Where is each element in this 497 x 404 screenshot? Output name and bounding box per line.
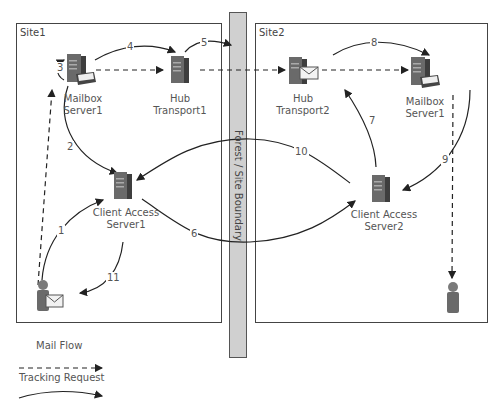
step-8: 8 xyxy=(370,37,378,48)
hub-transport2-label: Hub Transport2 xyxy=(270,93,336,117)
step-9: 9 xyxy=(441,154,449,165)
step-5: 5 xyxy=(200,37,208,48)
step-4: 4 xyxy=(126,41,134,52)
hub-transport2-icon xyxy=(286,55,322,87)
step-2: 2 xyxy=(66,141,74,152)
recipient-user-icon xyxy=(444,281,462,315)
mailbox-server2-icon xyxy=(408,55,442,91)
sender-user-icon xyxy=(34,279,66,313)
step-1: 1 xyxy=(57,225,65,236)
legend-tracking-request-label: Tracking Request xyxy=(19,372,104,383)
client-access-server2-icon xyxy=(369,173,393,205)
mailbox-server1-label: Mailbox Server1 xyxy=(58,93,108,117)
client-access-server1-icon xyxy=(111,170,135,202)
mailbox-server1-icon xyxy=(64,52,98,88)
hub-transport1-icon xyxy=(168,54,192,86)
mailbox-server2-label: Mailbox Server1 xyxy=(400,96,450,120)
step-11: 11 xyxy=(106,272,121,283)
step-7: 7 xyxy=(368,115,376,126)
client-access-server2-label: Client Access Server2 xyxy=(348,209,420,233)
step-10: 10 xyxy=(294,146,309,157)
boundary-label: Forest / Site Boundary xyxy=(233,130,244,241)
step-3: 3 xyxy=(56,62,64,73)
legend-mail-flow-label: Mail Flow xyxy=(36,340,82,351)
hub-transport1-label: Hub Transport1 xyxy=(150,93,210,117)
step-6: 6 xyxy=(190,228,198,239)
boundary-label-wrap: Forest / Site Boundary xyxy=(229,12,247,358)
client-access-server1-label: Client Access Server1 xyxy=(90,207,162,231)
